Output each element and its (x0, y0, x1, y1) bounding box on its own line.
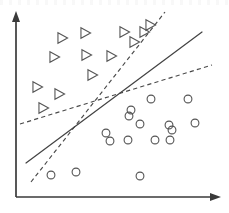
plot-canvas (0, 0, 229, 213)
triangle-markers-group (33, 20, 156, 114)
circle-marker (124, 136, 132, 144)
triangle-marker (107, 51, 117, 62)
circle-marker (136, 120, 144, 128)
circle-marker (151, 136, 159, 144)
axes-group (12, 11, 221, 201)
steep-dashed-boundary (31, 12, 165, 182)
circle-marker (72, 168, 80, 176)
triangle-marker (39, 103, 49, 114)
solid-boundary (26, 32, 202, 163)
circle-marker (147, 95, 155, 103)
triangle-marker (140, 27, 150, 38)
circle-marker (191, 119, 199, 127)
triangle-marker (58, 33, 68, 44)
triangle-marker (55, 89, 65, 100)
boundary-lines-group (20, 12, 212, 182)
circle-marker (47, 171, 55, 179)
triangle-marker (88, 70, 98, 81)
x-axis-arrowhead (210, 193, 221, 201)
triangle-marker (82, 50, 92, 61)
y-axis-arrowhead (12, 11, 20, 22)
triangle-marker (50, 52, 60, 63)
circle-markers-group (47, 95, 199, 180)
triangle-marker (33, 82, 43, 93)
circle-marker (106, 137, 114, 145)
triangle-marker (120, 27, 130, 38)
circle-marker (184, 95, 192, 103)
circle-marker (166, 136, 174, 144)
triangle-marker (146, 20, 156, 31)
circle-marker (102, 129, 110, 137)
scatter-plot-figure (0, 0, 229, 213)
shallow-dashed-boundary (20, 65, 212, 124)
circle-marker (136, 172, 144, 180)
triangle-marker (81, 28, 91, 39)
